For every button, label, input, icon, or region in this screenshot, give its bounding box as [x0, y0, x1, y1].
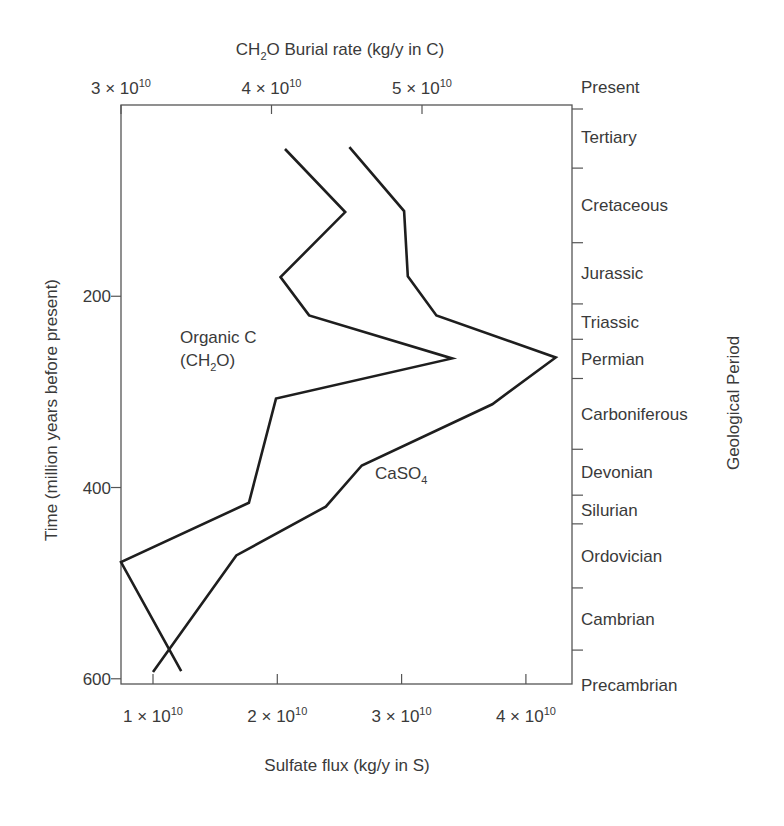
left-axis-tick-label: 600: [83, 670, 111, 689]
period-label-triassic: Triassic: [581, 313, 639, 332]
caso4-label: CaSO4: [375, 464, 427, 486]
series-layer: [121, 147, 556, 672]
period-label-silurian: Silurian: [581, 501, 638, 520]
left-axis-tick-label: 400: [83, 479, 111, 498]
chart: 3 × 10104 × 10105 × 1010CH2O Burial rate…: [0, 0, 784, 826]
top-axis-tick-label: 5 × 1010: [392, 77, 452, 98]
organic-carbon-line: [121, 149, 452, 671]
caso4-line: [153, 147, 556, 672]
period-label-tertiary: Tertiary: [581, 128, 637, 147]
period-label-precambrian: Precambrian: [581, 676, 677, 695]
period-label-cretaceous: Cretaceous: [581, 196, 668, 215]
period-label-ordovician: Ordovician: [581, 547, 662, 566]
period-label-present: Present: [581, 78, 640, 97]
right-axis-title: Geological Period: [724, 336, 743, 470]
period-label-cambrian: Cambrian: [581, 610, 655, 629]
period-label-jurassic: Jurassic: [581, 264, 644, 283]
period-label-carboniferous: Carboniferous: [581, 405, 688, 424]
top-axis-tick-label: 4 × 1010: [242, 77, 302, 98]
top-axis-tick-label: 3 × 1010: [91, 77, 151, 98]
top-axis: 3 × 10104 × 10105 × 1010CH2O Burial rate…: [91, 40, 452, 114]
bottom-axis-tick-label: 1 × 1010: [123, 705, 183, 726]
series-labels: Organic C(CH2O)CaSO4: [180, 328, 427, 486]
left-axis: 200400600Time (million years before pres…: [42, 279, 121, 689]
bottom-axis-tick-label: 2 × 1010: [247, 705, 307, 726]
left-axis-tick-label: 200: [83, 287, 111, 306]
right-axis: PresentTertiaryCretaceousJurassicTriassi…: [572, 78, 743, 695]
bottom-axis: 1 × 10102 × 10103 × 10104 × 1010Sulfate …: [123, 674, 556, 775]
organic-carbon-label: Organic C: [180, 328, 257, 347]
bottom-axis-title: Sulfate flux (kg/y in S): [264, 756, 429, 775]
bottom-axis-tick-label: 4 × 1010: [496, 705, 556, 726]
top-axis-title: CH2O Burial rate (kg/y in C): [236, 40, 444, 62]
organic-carbon-formula-label: (CH2O): [180, 351, 235, 373]
left-axis-title: Time (million years before present): [42, 279, 61, 541]
bottom-axis-tick-label: 3 × 1010: [372, 705, 432, 726]
period-label-permian: Permian: [581, 350, 644, 369]
period-label-devonian: Devonian: [581, 463, 653, 482]
